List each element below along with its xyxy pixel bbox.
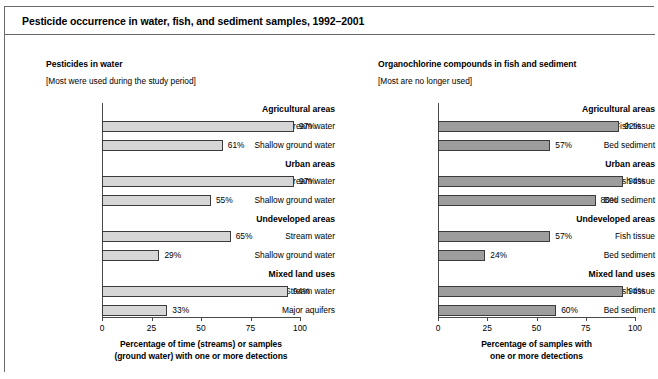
- bar-value-label: 97%: [299, 121, 316, 132]
- x-axis-tick: [635, 317, 636, 321]
- bar: [102, 231, 231, 242]
- bar: [438, 121, 619, 132]
- group-label: Agricultural areas: [556, 103, 655, 115]
- bar-value-label: 55%: [216, 195, 233, 206]
- x-axis-tick-label: 50: [186, 323, 216, 333]
- x-axis-title-right-line1: Percentage of samples with: [438, 339, 635, 351]
- figure-title-bar: Pesticide occurrence in water, fish, and…: [5, 7, 655, 35]
- x-axis-tick: [537, 317, 538, 321]
- bar-value-label: 24%: [490, 250, 507, 261]
- bar-value-label: 92%: [624, 121, 641, 132]
- x-axis-tick-label: 75: [236, 323, 266, 333]
- x-axis-tick-label: 0: [87, 323, 117, 333]
- bar: [438, 286, 623, 297]
- group-label: Agricultural areas: [242, 103, 335, 115]
- figure-title: Pesticide occurrence in water, fish, and…: [22, 15, 364, 27]
- x-axis-tick: [251, 317, 252, 321]
- bar-category-label: Shallow ground water: [242, 139, 335, 151]
- x-axis-title-left-line1: Percentage of time (streams) or samples: [102, 339, 300, 351]
- figure-frame: Pesticide occurrence in water, fish, and…: [4, 6, 654, 372]
- x-axis-tick-label: 0: [423, 323, 453, 333]
- x-axis-tick-label: 100: [285, 323, 315, 333]
- bar-category-label: Shallow ground water: [242, 194, 335, 206]
- bar-value-label: 60%: [561, 305, 578, 316]
- group-label: Mixed land uses: [242, 268, 335, 280]
- x-axis-tick: [487, 317, 488, 321]
- bar-value-label: 94%: [628, 176, 645, 187]
- group-label: Mixed land uses: [556, 268, 655, 280]
- bar-value-label: 57%: [555, 231, 572, 242]
- panel-pesticides-in-water: Pesticides in water [Most were used duri…: [5, 35, 335, 373]
- x-axis-tick-label: 75: [571, 323, 601, 333]
- x-axis-tick-label: 25: [472, 323, 502, 333]
- bar-value-label: 65%: [236, 231, 253, 242]
- x-axis-tick: [438, 317, 439, 321]
- group-label: Undeveloped areas: [242, 213, 335, 225]
- bar-category-label: Major aquifers: [242, 304, 335, 316]
- x-axis-tick: [586, 317, 587, 321]
- bar-category-label: Bed sediment: [556, 249, 655, 261]
- bar: [438, 195, 596, 206]
- bar-value-label: 57%: [555, 140, 572, 151]
- bar: [438, 305, 556, 316]
- bar: [438, 250, 485, 261]
- bar: [102, 305, 167, 316]
- panel-left-heading: Pesticides in water: [46, 59, 122, 69]
- bar: [102, 176, 294, 187]
- bar: [438, 176, 623, 187]
- panel-right-heading: Organochlorine compounds in fish and sed…: [378, 59, 576, 69]
- bar: [438, 231, 550, 242]
- bar-value-label: 61%: [228, 140, 245, 151]
- panel-left-subheading: [Most were used during the study period]: [46, 76, 196, 86]
- x-axis-tick: [152, 317, 153, 321]
- group-label: Urban areas: [556, 158, 655, 170]
- x-axis-tick: [102, 317, 103, 321]
- x-axis-tick: [201, 317, 202, 321]
- bar: [102, 286, 288, 297]
- bar-value-label: 29%: [164, 250, 181, 261]
- bar-value-label: 97%: [299, 176, 316, 187]
- bar-category-label: Shallow ground water: [242, 249, 335, 261]
- group-label: Urban areas: [242, 158, 335, 170]
- plot-area-right: Percentage of samples with one or more d…: [335, 103, 655, 333]
- bar-value-label: 94%: [628, 286, 645, 297]
- bar: [102, 121, 294, 132]
- bar: [438, 140, 550, 151]
- plot-area-left: Percentage of time (streams) or samples …: [5, 103, 335, 333]
- figure-caption: [22, 359, 642, 371]
- x-axis-tick-label: 25: [137, 323, 167, 333]
- x-axis-tick: [300, 317, 301, 321]
- panel-right-subheading: [Most are no longer used]: [378, 76, 472, 86]
- bar-value-label: 33%: [172, 305, 189, 316]
- bar: [102, 250, 159, 261]
- panel-organochlorine-fish-sediment: Organochlorine compounds in fish and sed…: [335, 35, 655, 373]
- x-axis-tick-label: 100: [620, 323, 650, 333]
- x-axis-tick-label: 50: [522, 323, 552, 333]
- bar-value-label: 80%: [601, 195, 618, 206]
- bar: [102, 195, 211, 206]
- bar: [102, 140, 223, 151]
- bar-category-label: Stream water: [242, 230, 335, 242]
- bar-value-label: 94%: [293, 286, 310, 297]
- group-label: Undeveloped areas: [556, 213, 655, 225]
